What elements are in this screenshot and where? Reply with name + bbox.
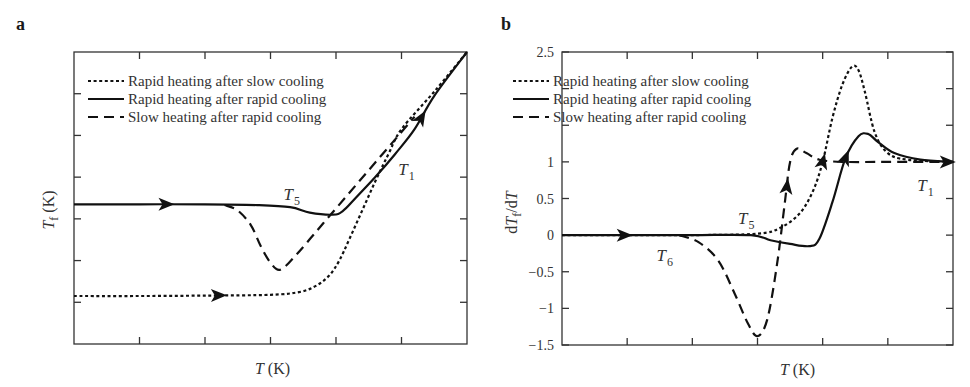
- annotation-T5: T5: [738, 209, 754, 232]
- x-axis-label: T (K): [255, 360, 290, 378]
- y-tick-label: 0: [547, 228, 554, 243]
- annotation-T5: T5: [284, 185, 300, 208]
- legend-label-solid: Rapid heating after rapid cooling: [553, 91, 752, 107]
- annotation-T1: T1: [917, 176, 933, 199]
- y-tick-label: 0.5: [537, 192, 555, 207]
- panel-b: b 2.510.50−0.5−1−1.5T (K)dTf/dTT5T6T1Rap…: [485, 0, 970, 387]
- series-dashed-line: [225, 117, 415, 270]
- arrow-dotted-icon: [211, 289, 227, 302]
- legend-label-dotted: Rapid heating after slow cooling: [128, 73, 324, 89]
- legend-label-dashed: Slow heating after rapid cooling: [128, 109, 322, 125]
- arrow-dashed-icon: [779, 178, 792, 195]
- chart-b-plot: 2.510.50−0.5−1−1.5T (K)dTf/dTT5T6T1Rapid…: [485, 0, 970, 387]
- y-axis-label: dTf/dT: [503, 190, 524, 233]
- annotation-T6: T6: [656, 246, 672, 269]
- y-tick-label: −1: [539, 301, 554, 316]
- y-tick-label: 2.5: [537, 45, 555, 60]
- series-solid-line: [562, 133, 953, 246]
- legend-label-dotted: Rapid heating after slow cooling: [553, 73, 749, 89]
- legend-label-solid: Rapid heating after rapid cooling: [128, 91, 327, 107]
- y-tick-label: −1.5: [529, 338, 554, 353]
- annotation-T1: T1: [398, 160, 414, 183]
- legend-label-dashed: Slow heating after rapid cooling: [553, 109, 747, 125]
- y-axis-label: Tf (K): [40, 190, 61, 229]
- chart-a-plot: T (K)Tf (K)T5T1Rapid heating after slow …: [0, 0, 485, 387]
- y-tick-label: −0.5: [529, 265, 554, 280]
- x-axis-label: T (K): [780, 361, 815, 379]
- panel-a: a T (K)Tf (K)T5T1Rapid heating after slo…: [0, 0, 485, 387]
- y-tick-label: 1: [547, 155, 554, 170]
